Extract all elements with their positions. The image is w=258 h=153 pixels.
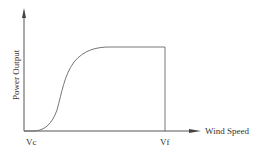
y-axis-label: Power Output <box>11 49 21 100</box>
x-axis-arrow-icon <box>189 129 201 133</box>
x-axis-label: Wind Speed <box>205 126 249 136</box>
power-curve-chart: Power Output Wind Speed Vc Vf <box>0 0 258 153</box>
y-axis-arrow-icon <box>22 8 26 18</box>
vf-tick-label: Vf <box>160 137 170 147</box>
power-curve-line <box>24 47 165 131</box>
vc-tick-label: Vc <box>26 137 37 147</box>
